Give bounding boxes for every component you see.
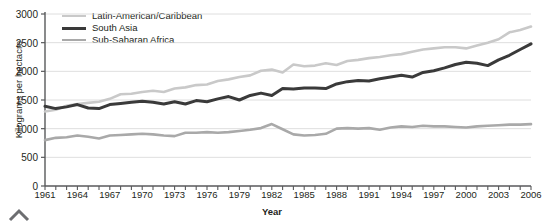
x-axis-tick-label: 2006: [520, 189, 541, 200]
x-axis-tick-label: 1970: [132, 189, 153, 200]
chart-root: Kilograms per hectacre Year 050010001500…: [0, 0, 544, 222]
x-axis-tick-label: 1982: [261, 189, 282, 200]
x-axis-tick-label: 1979: [229, 189, 250, 200]
x-axis-tick-label: 1991: [358, 189, 379, 200]
x-axis-tick-label: 2003: [488, 189, 509, 200]
series-line: [45, 27, 531, 112]
x-axis-tick-label: 1964: [67, 189, 88, 200]
x-axis-tick-label: 2000: [456, 189, 477, 200]
x-axis-tick-label: 1994: [391, 189, 412, 200]
x-axis-tick-label: 1985: [294, 189, 315, 200]
chevron-up-icon: [8, 208, 30, 222]
x-axis-tick-label: 1961: [34, 189, 55, 200]
series-line: [45, 124, 531, 140]
x-axis-tick-label: 1973: [164, 189, 185, 200]
x-axis-tick-label: 1988: [326, 189, 347, 200]
x-axis-tick-label: 1997: [423, 189, 444, 200]
x-axis-tick-label: 1976: [196, 189, 217, 200]
series-line: [45, 44, 531, 109]
x-axis-tick-label: 1967: [99, 189, 120, 200]
